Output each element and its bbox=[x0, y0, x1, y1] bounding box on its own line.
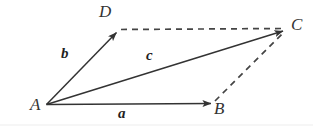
vector-diagram-canvas bbox=[0, 0, 313, 126]
dashed-line-d-to-c bbox=[121, 29, 283, 30]
vector-diagram-figure: A B C D a b c bbox=[0, 0, 313, 126]
dashed-line-b-to-c bbox=[215, 33, 284, 102]
point-label-c: C bbox=[291, 16, 302, 33]
vector-a-arrow bbox=[47, 104, 212, 105]
point-label-b: B bbox=[214, 100, 224, 117]
point-label-a: A bbox=[30, 96, 40, 113]
vector-label-b: b bbox=[61, 46, 69, 61]
point-label-d: D bbox=[99, 3, 111, 20]
scan-edge-artifact bbox=[0, 124, 313, 126]
vector-label-c: c bbox=[146, 48, 153, 63]
vector-label-a: a bbox=[118, 106, 126, 121]
